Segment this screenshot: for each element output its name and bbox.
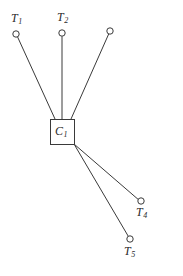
terminal-node-t5 xyxy=(127,236,133,242)
terminal-label-t2-subscript: 2 xyxy=(64,16,68,25)
terminal-label-t4-base: T xyxy=(136,205,143,219)
center-node-label-subscript: 1 xyxy=(64,130,68,139)
terminal-label-t5: T5 xyxy=(124,245,135,257)
terminal-node-t4 xyxy=(138,198,144,204)
terminal-label-t4-subscript: 4 xyxy=(143,211,147,220)
figure-canvas: T1T2T4T5C1 xyxy=(0,0,183,276)
graph-svg xyxy=(0,0,183,276)
terminal-label-t1: T1 xyxy=(11,12,22,24)
terminal-label-t1-subscript: 1 xyxy=(18,17,22,26)
terminal-node-t2 xyxy=(59,30,65,36)
terminal-label-t2-base: T xyxy=(57,10,64,24)
center-node-label: C1 xyxy=(55,125,67,137)
edge-c1-t3 xyxy=(71,34,109,119)
terminal-label-t5-subscript: 5 xyxy=(131,250,135,259)
center-node-label-base: C xyxy=(55,124,63,138)
edges-group xyxy=(18,34,139,236)
terminal-node-t3 xyxy=(107,28,113,34)
edge-c1-t1 xyxy=(18,37,56,119)
edge-c1-t5 xyxy=(74,144,128,236)
terminal-node-t1 xyxy=(13,31,19,37)
terminal-label-t1-base: T xyxy=(11,11,18,25)
terminal-label-t4: T4 xyxy=(136,206,147,218)
terminal-label-t2: T2 xyxy=(57,11,68,23)
edge-c1-t4 xyxy=(74,144,138,200)
terminal-label-t5-base: T xyxy=(124,244,131,258)
nodes-group xyxy=(13,28,144,242)
